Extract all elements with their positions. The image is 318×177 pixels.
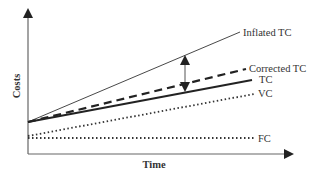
inflated-tc-label: Inflated TC [243, 27, 292, 38]
inflated-tc-line [28, 32, 240, 122]
x-axis-arrow-icon [284, 149, 294, 159]
fc-label: FC [258, 133, 271, 144]
gap-double-arrow-icon [180, 55, 190, 92]
tc-label: TC [259, 74, 272, 85]
cost-diagram: Inflated TC Corrected TC TC VC FC Time C… [0, 0, 318, 177]
diagram-canvas: Inflated TC Corrected TC TC VC FC Time C… [0, 0, 318, 177]
y-axis-arrow-icon [23, 8, 33, 18]
y-axis-label: Costs [11, 74, 22, 99]
tc-line [28, 80, 252, 122]
x-axis-label: Time [142, 159, 165, 170]
corrected-tc-label: Corrected TC [249, 63, 306, 74]
corrected-tc-line [28, 69, 246, 122]
vc-label: VC [258, 88, 273, 99]
